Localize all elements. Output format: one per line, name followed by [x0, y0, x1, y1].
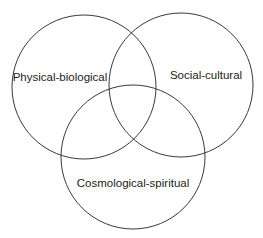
- label-physical-biological: Physical-biological: [13, 71, 108, 83]
- label-cosmological-spiritual: Cosmological-spiritual: [77, 177, 189, 189]
- venn-diagram: Physical-biological Social-cultural Cosm…: [0, 0, 263, 238]
- circle-physical-biological: [12, 15, 156, 159]
- label-social-cultural: Social-cultural: [170, 69, 242, 81]
